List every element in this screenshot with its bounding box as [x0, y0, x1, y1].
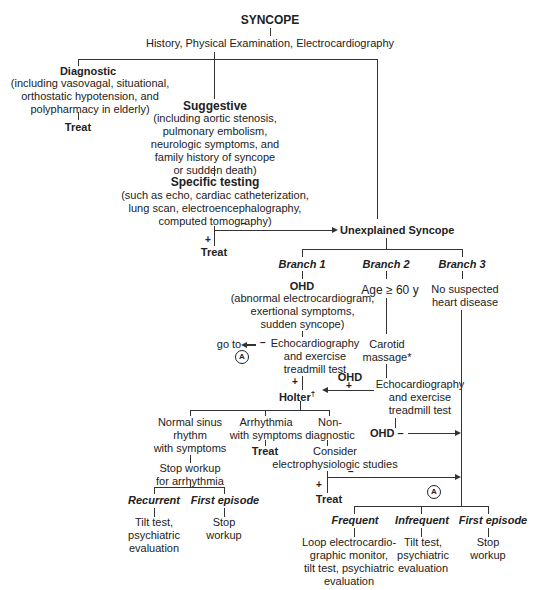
- connector-line: [327, 471, 328, 493]
- unexplained-syncope: Unexplained Syncope: [340, 224, 465, 237]
- infrequent-label: Infrequent: [390, 514, 454, 527]
- connector-line: [270, 28, 271, 36]
- branch-2-condition: Age ≥ 60 y: [350, 284, 430, 297]
- connector-line: [190, 480, 191, 487]
- minus-sign: –: [260, 336, 266, 349]
- final-first-episode-action: Stop workup: [463, 536, 513, 562]
- connector-line: [488, 506, 489, 514]
- specific-testing-label: Specific testing: [140, 176, 290, 189]
- infrequent-action: Tilt test, psychiatric evaluation: [393, 536, 453, 575]
- first-episode-label: First episode: [182, 494, 268, 507]
- branch-3-label: Branch 3: [422, 258, 502, 271]
- branch-2-label: Branch 2: [346, 258, 426, 271]
- dagger-mark: †: [311, 389, 315, 398]
- connector-line: [462, 249, 463, 257]
- suggestive-detail: (including aortic stenosis, pulmonary em…: [130, 112, 300, 177]
- arrow-line-goto: [246, 344, 256, 346]
- syncope-flowchart: SYNCOPE History, Physical Examination, E…: [0, 0, 536, 590]
- connector-line: [302, 249, 303, 257]
- branch-2-echo-test: Echocardiography and exercise treadmill …: [365, 378, 475, 417]
- ep-treat: Treat: [305, 493, 353, 506]
- recurrent-action: Tilt test, psychiatric evaluation: [114, 516, 194, 555]
- plus-sign: +: [346, 379, 352, 392]
- connector-a-icon: A: [235, 350, 249, 364]
- holter-outcome-nondiagnostic: Non- diagnostic: [300, 416, 360, 442]
- go-to-label: go to: [214, 338, 244, 351]
- specific-testing-treat: Treat: [190, 246, 238, 259]
- branch-3-main-line: [461, 310, 462, 506]
- connector-line: [154, 487, 155, 494]
- title-syncope: SYNCOPE: [200, 14, 340, 27]
- holter-label: Holter†: [272, 387, 322, 404]
- first-episode-action: Stop workup: [194, 516, 254, 542]
- plus-sign: +: [205, 233, 211, 246]
- branch-3-condition: No suspected heart disease: [420, 283, 510, 309]
- final-first-episode-label: First episode: [450, 514, 536, 527]
- connector-line: [214, 59, 215, 99]
- connector-line: [386, 298, 387, 334]
- connector-line: [421, 506, 422, 514]
- connector-a-icon: A: [427, 485, 441, 499]
- minus-sign: –: [241, 217, 247, 230]
- connector-line: [224, 487, 225, 494]
- connector-line: [386, 271, 387, 279]
- carotid-massage: Carotid massage*: [355, 338, 419, 364]
- connector-line: [302, 271, 303, 279]
- connector-line: [386, 364, 387, 378]
- consider-ep-studies: Consider electrophysiologic studies: [260, 445, 410, 471]
- initial-evaluation: History, Physical Examination, Electroca…: [90, 37, 450, 50]
- holter-split-line: [190, 410, 330, 411]
- arrow-line-ohd-negative: [408, 433, 455, 434]
- plus-sign: +: [316, 478, 322, 491]
- specific-testing-detail: (such as echo, cardiac catheterization, …: [100, 189, 330, 228]
- branch-split-line: [302, 249, 462, 250]
- diagnostic-treat: Treat: [50, 121, 106, 134]
- connector-line-right: [377, 59, 378, 219]
- arrow-line-unexplained: [214, 230, 334, 231]
- arrow-right-icon: [332, 227, 338, 233]
- split-line: [78, 59, 378, 60]
- frequent-label: Frequent: [320, 514, 390, 527]
- connector-line: [462, 271, 463, 279]
- arrow-line-ep-negative: [327, 477, 455, 478]
- connector-line: [78, 112, 79, 120]
- branch-1-detail: (abnormal electrocardiogram, exertional …: [215, 292, 390, 331]
- holter-text: Holter: [279, 391, 311, 403]
- connector-line: [214, 226, 215, 246]
- connector-line: [354, 506, 355, 514]
- holter-outcome-arrhythmia: Arrhythmia with symptoms: [222, 416, 310, 442]
- nsr-split-line: [154, 487, 224, 488]
- branch-1-label: Branch 1: [262, 258, 342, 271]
- frequent-action: Loop electrocardio- graphic monitor, til…: [293, 536, 405, 588]
